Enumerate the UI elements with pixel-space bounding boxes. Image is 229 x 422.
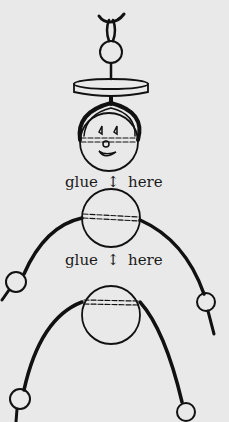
disc-hat xyxy=(74,79,148,96)
left-leg xyxy=(24,302,82,390)
glue-label-lower: glue ↕ here xyxy=(65,253,163,268)
glue-word: glue xyxy=(65,173,98,191)
here-word: here xyxy=(128,173,163,191)
double-arrow-icon: ↕ xyxy=(107,173,120,191)
face xyxy=(99,126,117,156)
glue-label-upper: glue ↕ here xyxy=(65,175,163,190)
lower-body-sphere xyxy=(82,286,140,344)
right-hand-bead xyxy=(197,293,215,311)
double-arrow-icon: ↕ xyxy=(107,251,120,269)
top-bead xyxy=(100,41,122,63)
right-leg xyxy=(140,302,182,402)
hanging-string xyxy=(99,14,124,41)
left-foot-bead xyxy=(10,389,30,409)
right-foot-bead xyxy=(177,403,195,421)
here-word: here xyxy=(128,251,163,269)
puppet-assembly-diagram xyxy=(0,0,229,422)
glue-word: glue xyxy=(65,251,98,269)
